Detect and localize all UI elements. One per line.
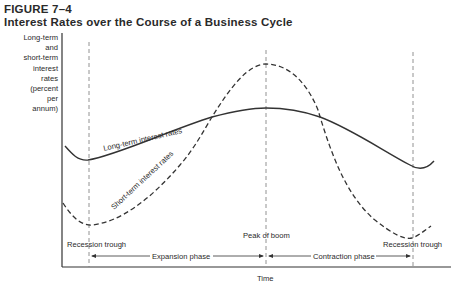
arrowhead-right xyxy=(259,254,264,258)
arrowhead-left xyxy=(91,254,96,258)
arrowhead-left xyxy=(268,254,273,258)
arrowhead-right xyxy=(406,254,411,258)
peak-label: Peak of boom xyxy=(243,231,290,240)
trough-right-label: Recession trough xyxy=(383,240,442,249)
long-term-rate-curve xyxy=(65,108,434,168)
chart-canvas: Long-term interest rates Short-term inte… xyxy=(0,0,473,297)
long-term-curve-label: Long-term interest rates xyxy=(102,126,183,153)
trough-left-label: Recession trough xyxy=(67,240,126,249)
x-axis-label: Time xyxy=(257,274,274,283)
short-term-curve-label: Short-term interest rates xyxy=(109,149,175,212)
expansion-phase-label: Expansion phase xyxy=(152,252,210,261)
contraction-phase-label: Contraction phase xyxy=(313,252,375,261)
